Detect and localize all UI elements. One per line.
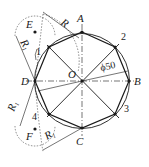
label-A: A xyxy=(76,12,84,24)
label-E: E xyxy=(25,18,33,30)
octagon-construction-figure: A B C D E F O 1 2 3 4 ϕ50 R R1 R1 R1 xyxy=(0,0,149,167)
label-F: F xyxy=(25,130,33,142)
label-4: 4 xyxy=(32,111,37,122)
label-R1-bottom: R1 xyxy=(41,126,57,143)
label-D: D xyxy=(20,75,29,87)
dim-line-phi50 xyxy=(82,71,128,81)
label-diameter: ϕ50 xyxy=(99,59,116,73)
label-C: C xyxy=(76,135,84,147)
label-2: 2 xyxy=(121,31,126,42)
label-R1-lower: R1 xyxy=(4,99,20,114)
label-1: 1 xyxy=(36,46,41,57)
label-R1-upper: R1 xyxy=(17,36,34,52)
label-O: O xyxy=(68,68,76,80)
label-3: 3 xyxy=(124,103,129,114)
label-R: R xyxy=(58,15,71,29)
dim-line-phi50-ext xyxy=(38,81,82,91)
label-B: B xyxy=(134,75,141,87)
diagram-canvas: A B C D E F O 1 2 3 4 ϕ50 R R1 R1 R1 xyxy=(0,0,149,167)
